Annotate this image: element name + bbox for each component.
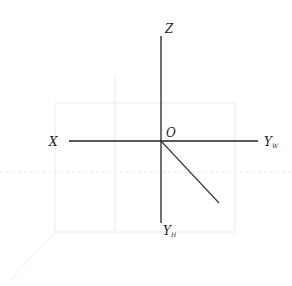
z-axis-label: Z: [164, 22, 174, 36]
yh-axis-label-subscript: H: [170, 231, 177, 238]
ghost-rectangle: [55, 103, 235, 232]
x-axis-label: X: [48, 135, 58, 149]
ghost-background-lines: [0, 75, 292, 280]
origin-label: O: [166, 126, 176, 140]
projection-axes-diagram: Z O X YW YH: [0, 0, 292, 286]
yw-axis-label-subscript: W: [272, 142, 279, 149]
yw-axis-label: YW: [264, 135, 279, 149]
yh-axis-label: YH: [163, 224, 177, 238]
ghost-diagonal-line: [10, 232, 55, 280]
